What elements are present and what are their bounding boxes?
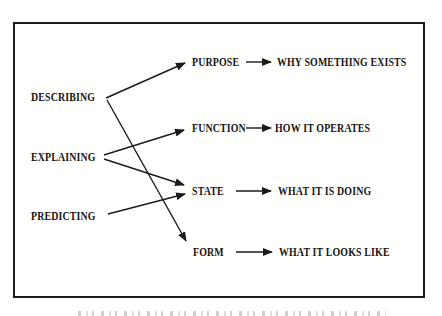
node-purpose: PURPOSE bbox=[192, 55, 239, 69]
description-purpose: WHY SOMETHING EXISTS bbox=[277, 55, 407, 69]
description-state: WHAT IT IS DOING bbox=[278, 184, 371, 198]
node-predicting: PREDICTING bbox=[31, 209, 96, 223]
description-function: HOW IT OPERATES bbox=[275, 121, 370, 135]
node-function: FUNCTION bbox=[192, 121, 246, 135]
description-form: WHAT IT LOOKS LIKE bbox=[279, 245, 390, 259]
cropped-caption-fragment bbox=[78, 311, 386, 316]
node-describing: DESCRIBING bbox=[31, 90, 95, 104]
figure-canvas: DESCRIBING EXPLAINING PREDICTING PURPOSE… bbox=[0, 0, 442, 316]
node-state: STATE bbox=[192, 184, 224, 198]
node-form: FORM bbox=[193, 245, 224, 259]
node-explaining: EXPLAINING bbox=[31, 150, 96, 164]
